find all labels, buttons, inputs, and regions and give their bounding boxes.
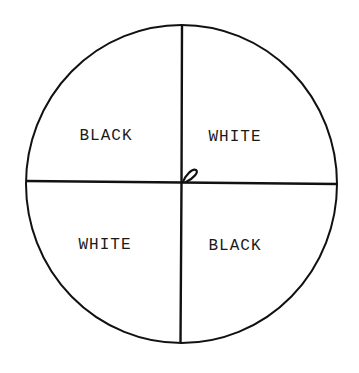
pivot-loop-icon [183, 170, 197, 182]
quadrant-label-top-left: BLACK [79, 127, 132, 145]
quadrant-label-bottom-left: WHITE [78, 236, 131, 254]
vertical-divider [181, 25, 183, 343]
quadrant-label-top-right: WHITE [208, 128, 261, 146]
quadrant-disk-diagram: BLACK WHITE WHITE BLACK [0, 0, 359, 373]
quadrant-label-bottom-right: BLACK [208, 237, 261, 255]
horizontal-divider [26, 181, 337, 184]
